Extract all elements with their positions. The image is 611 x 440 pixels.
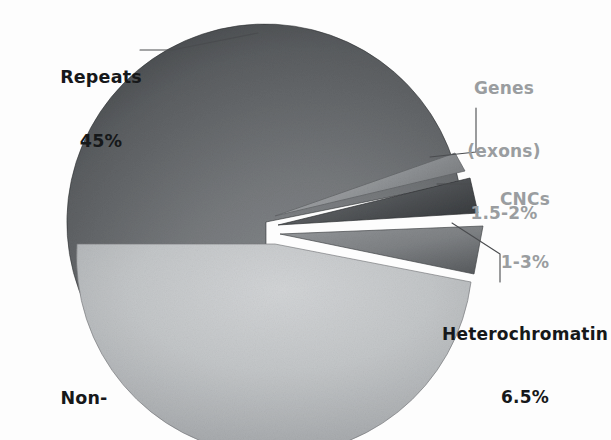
slice-label-heterochromatin: Heterochromatin 6.5% xyxy=(440,283,610,440)
slice-label-repeats-value: 45% xyxy=(36,131,166,152)
slice-label-cncs-value: 1-3% xyxy=(470,252,580,273)
slice-label-heterochromatin-name: Heterochromatin xyxy=(440,324,610,345)
slice-label-genes-name: Genes xyxy=(440,78,568,99)
slice-label-repeats-name: Repeats xyxy=(36,67,166,88)
slice-label-repeats: Repeats 45% xyxy=(36,24,166,195)
slice-label-nonconserved-name-1: Non- xyxy=(24,388,144,409)
slice-label-nonconserved: Non- conserved 43.5% xyxy=(24,345,144,440)
slice-label-heterochromatin-value: 6.5% xyxy=(440,387,610,408)
slice-label-cncs-name: CNCs xyxy=(470,189,580,210)
chart-canvas: Repeats 45% Genes (exons) 1.5-2% CNCs 1-… xyxy=(0,0,611,440)
